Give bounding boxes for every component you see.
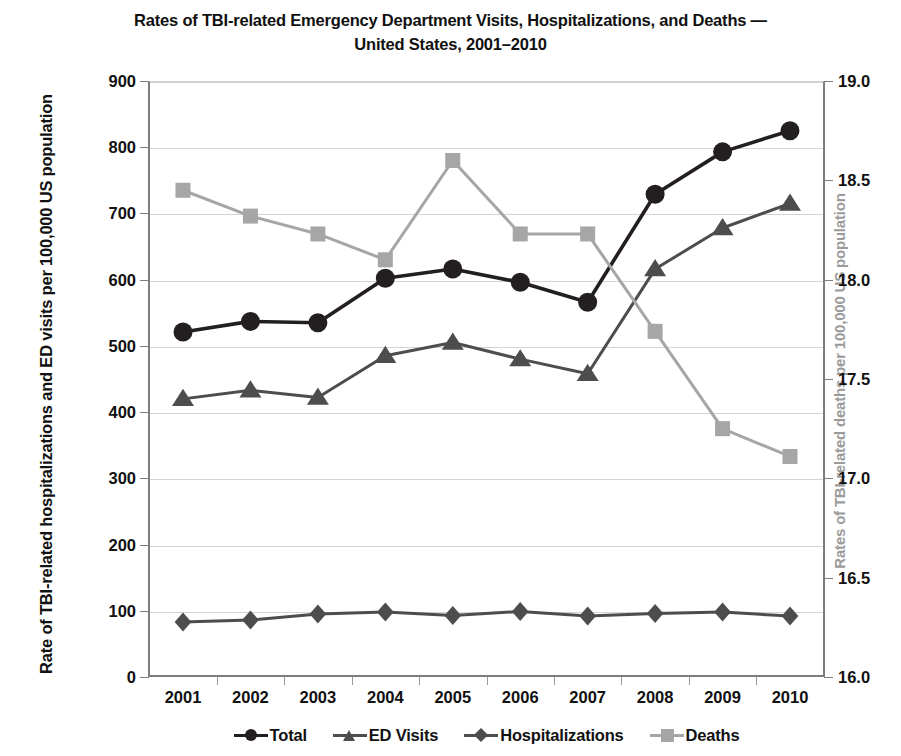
x-axis-tick-label: 2007 [553, 688, 623, 706]
y-axis-left-tickmark [140, 478, 149, 479]
legend-marker-square-icon [661, 729, 674, 742]
chart-title-line-1: Rates of TBI-related Emergency Departmen… [0, 8, 901, 32]
legend-label: Deaths [686, 726, 740, 744]
x-axis-tickmark [756, 677, 757, 685]
x-axis-tickmark [284, 677, 285, 685]
x-axis-tickmark [487, 677, 488, 685]
y-axis-right-tickmark [824, 180, 833, 181]
y-axis-right-tickmark [824, 578, 833, 579]
legend-item-hospitalizations[interactable]: Hospitalizations [464, 726, 623, 744]
x-axis-tickmark [352, 677, 353, 685]
gridline [150, 347, 823, 348]
y-axis-left-tick-label: 0 [76, 668, 136, 686]
x-axis-tick-label: 2006 [485, 688, 555, 706]
gridline [150, 413, 823, 414]
x-axis-tick-label: 2004 [350, 688, 420, 706]
x-axis-tickmark [689, 677, 690, 685]
legend-label: Total [270, 726, 307, 744]
y-axis-left-tickmark [140, 280, 149, 281]
x-axis-tick-label: 2005 [418, 688, 488, 706]
gridline [150, 546, 823, 547]
legend-item-total[interactable]: Total [234, 726, 307, 744]
legend-item-deaths[interactable]: Deaths [650, 726, 740, 744]
x-axis-tick-label: 2010 [755, 688, 825, 706]
y-axis-right-tick-label: 16.5 [838, 569, 898, 587]
x-axis-tickmark [621, 677, 622, 685]
gridline [150, 214, 823, 215]
x-axis-tick-label: 2008 [620, 688, 690, 706]
legend-swatch-circle-icon [234, 728, 268, 742]
y-axis-left-tickmark [140, 213, 149, 214]
y-axis-right-tickmark [824, 280, 833, 281]
y-axis-right-tickmark [824, 81, 833, 82]
y-axis-right-tickmark [824, 677, 833, 678]
x-axis-tick-label: 2001 [148, 688, 218, 706]
y-axis-right-tick-label: 17.0 [838, 469, 898, 487]
y-axis-left-tickmark [140, 545, 149, 546]
legend-marker-circle-icon [245, 729, 257, 741]
y-axis-left-tick-label: 300 [76, 469, 136, 487]
legend-marker-triangle-icon [343, 730, 355, 741]
legend-marker-diamond-icon [474, 728, 488, 742]
y-axis-left-tick-label: 600 [76, 271, 136, 289]
x-axis-tickmark [554, 677, 555, 685]
chart-title-line-2: United States, 2001–2010 [0, 32, 901, 56]
y-axis-left-tick-label: 500 [76, 337, 136, 355]
legend-label: ED Visits [369, 726, 438, 744]
legend-swatch-triangle-icon [333, 728, 367, 742]
y-axis-left-tick-label: 100 [76, 602, 136, 620]
y-axis-right-tick-label: 18.5 [838, 171, 898, 189]
y-axis-right-tick-label: 18.0 [838, 271, 898, 289]
gridline [150, 281, 823, 282]
y-axis-left-tick-label: 200 [76, 536, 136, 554]
y-axis-left-tickmark [140, 677, 149, 678]
y-axis-left-tick-label: 800 [76, 138, 136, 156]
gridline [150, 148, 823, 149]
y-axis-right-tick-label: 17.5 [838, 370, 898, 388]
y-axis-left-tickmark [140, 412, 149, 413]
gridline [150, 479, 823, 480]
x-axis-tickmark [217, 677, 218, 685]
x-axis-tick-label: 2009 [688, 688, 758, 706]
gridline [150, 82, 823, 83]
legend-swatch-square-icon [650, 728, 684, 742]
x-axis-tick-label: 2003 [283, 688, 353, 706]
y-axis-right-tick-label: 19.0 [838, 72, 898, 90]
legend-swatch-diamond-icon [464, 728, 498, 742]
y-axis-right-tickmark [824, 379, 833, 380]
gridline [150, 612, 823, 613]
x-axis-tickmark [419, 677, 420, 685]
y-axis-left-tick-label: 400 [76, 403, 136, 421]
y-axis-left-title: Rate of TBI-related hospitalizations and… [35, 84, 79, 684]
legend-label: Hospitalizations [500, 726, 623, 744]
chart-container: Rates of TBI-related Emergency Departmen… [0, 0, 901, 756]
y-axis-left-tick-label: 700 [76, 204, 136, 222]
plot-area [148, 81, 825, 677]
legend-item-ed-visits[interactable]: ED Visits [333, 726, 438, 744]
y-axis-left-tickmark [140, 147, 149, 148]
y-axis-left-tick-label: 900 [76, 72, 136, 90]
y-axis-left-tickmark [140, 81, 149, 82]
y-axis-right-tickmark [824, 478, 833, 479]
y-axis-left-tickmark [140, 611, 149, 612]
y-axis-left-tickmark [140, 346, 149, 347]
y-axis-right-tick-label: 16.0 [838, 668, 898, 686]
x-axis-tick-label: 2002 [215, 688, 285, 706]
chart-title: Rates of TBI-related Emergency Departmen… [0, 8, 901, 56]
chart-legend: TotalED VisitsHospitalizationsDeaths [148, 722, 825, 748]
